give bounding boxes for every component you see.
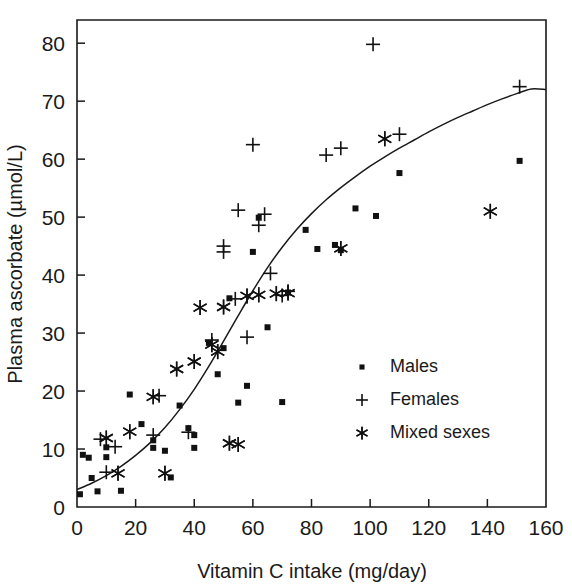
data-point-square	[314, 246, 320, 252]
y-tick-label: 60	[42, 148, 65, 171]
data-point-asterisk	[194, 300, 207, 315]
data-point-square	[118, 488, 124, 494]
series-females-markers	[93, 37, 526, 479]
data-point-square	[215, 371, 221, 377]
data-point-asterisk	[484, 204, 497, 219]
x-tick-label: 140	[470, 516, 505, 539]
data-point-square	[77, 491, 83, 497]
y-tick-label: 10	[42, 438, 65, 461]
data-point-asterisk	[217, 299, 230, 314]
legend: MalesFemalesMixed sexes	[356, 356, 490, 442]
legend-marker-asterisk	[356, 427, 367, 440]
x-tick-label: 20	[124, 516, 147, 539]
data-point-square	[86, 455, 92, 461]
x-tick-label: 80	[300, 516, 323, 539]
data-point-plus	[228, 292, 242, 306]
data-point-plus	[217, 245, 231, 259]
data-point-plus	[146, 428, 160, 442]
x-tick-label: 40	[183, 516, 206, 539]
x-tick-label: 160	[528, 516, 563, 539]
data-point-square	[138, 421, 144, 427]
legend-label: Males	[390, 356, 438, 376]
data-point-square	[177, 403, 183, 409]
data-point-square	[103, 454, 109, 460]
data-point-square	[80, 452, 86, 458]
y-tick-label: 40	[42, 264, 65, 287]
y-axis-ticks	[77, 43, 85, 449]
y-axis-tick-labels: 01020304050607080	[42, 32, 65, 519]
y-axis-title: Plasma ascorbate (µmol/L)	[4, 144, 26, 383]
data-point-asterisk	[232, 437, 245, 452]
y-tick-label: 50	[42, 206, 65, 229]
data-point-asterisk	[147, 389, 160, 404]
legend-label: Mixed sexes	[390, 422, 490, 442]
x-axis-tick-labels: 020406080100120140160	[71, 516, 563, 539]
data-point-asterisk	[270, 286, 283, 301]
data-point-asterisk	[241, 288, 254, 303]
x-axis-ticks	[136, 499, 488, 507]
legend-label: Females	[390, 389, 459, 409]
data-point-plus	[252, 218, 266, 232]
data-point-asterisk	[223, 436, 236, 451]
data-point-square	[250, 249, 256, 255]
y-tick-label: 20	[42, 380, 65, 403]
data-point-asterisk	[170, 362, 183, 377]
chart-svg: 020406080100120140160 01020304050607080 …	[0, 0, 572, 587]
scatter-plot-figure: 020406080100120140160 01020304050607080 …	[0, 0, 572, 587]
data-point-plus	[366, 37, 380, 51]
data-point-square	[303, 227, 309, 233]
data-point-asterisk	[100, 431, 113, 446]
data-point-asterisk	[112, 466, 125, 481]
data-point-square	[150, 445, 156, 451]
data-point-square	[127, 392, 133, 398]
data-point-asterisk	[378, 131, 391, 146]
data-point-square	[279, 399, 285, 405]
y-tick-label: 30	[42, 322, 65, 345]
data-point-square	[191, 445, 197, 451]
legend-marker-square	[359, 364, 364, 369]
y-tick-label: 70	[42, 90, 65, 113]
series-males-markers	[77, 158, 523, 497]
data-point-asterisk	[282, 286, 295, 301]
data-point-square	[89, 475, 95, 481]
data-point-plus	[99, 465, 113, 479]
data-point-asterisk	[123, 424, 136, 439]
data-point-square	[265, 324, 271, 330]
data-point-square	[235, 400, 241, 406]
x-axis-title: Vitamin C intake (mg/day)	[197, 560, 427, 582]
data-point-square	[162, 448, 168, 454]
data-point-plus	[231, 203, 245, 217]
data-point-square	[373, 213, 379, 219]
data-point-square	[396, 170, 402, 176]
x-tick-label: 0	[71, 516, 83, 539]
x-tick-label: 60	[241, 516, 264, 539]
data-point-plus	[240, 330, 254, 344]
data-point-asterisk	[188, 354, 201, 369]
x-tick-label: 100	[353, 516, 388, 539]
y-tick-label: 80	[42, 32, 65, 55]
data-point-plus	[319, 148, 333, 162]
data-point-plus	[108, 440, 122, 454]
y-tick-label: 0	[53, 496, 65, 519]
data-point-plus	[334, 141, 348, 155]
data-point-square	[244, 383, 250, 389]
data-point-square	[517, 158, 523, 164]
data-point-plus	[263, 266, 277, 280]
legend-marker-plus	[356, 394, 368, 406]
data-point-square	[95, 488, 101, 494]
data-point-plus	[246, 138, 260, 152]
data-point-plus	[392, 127, 406, 141]
x-tick-label: 120	[411, 516, 446, 539]
data-point-square	[352, 205, 358, 211]
